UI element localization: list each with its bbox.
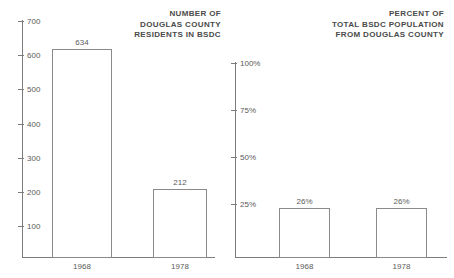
y-tick-left-700 xyxy=(18,21,24,22)
chart-title-right-line-1: PERCENT OF xyxy=(332,9,444,20)
x-label-left-1968: 1968 xyxy=(52,262,112,271)
y-tick-label-right-100: 100% xyxy=(240,59,260,68)
y-tick-right-25 xyxy=(231,204,237,205)
y-tick-label-right-25: 25% xyxy=(240,200,256,209)
chart-title-left: NUMBER OF DOUGLAS COUNTY RESIDENTS IN BS… xyxy=(134,9,221,41)
y-tick-label-right-50: 50% xyxy=(240,153,256,162)
figure-two-bar-charts: NUMBER OF DOUGLAS COUNTY RESIDENTS IN BS… xyxy=(0,0,454,278)
bar-right-1978 xyxy=(376,208,427,258)
chart-title-right: PERCENT OF TOTAL BSDC POPULATION FROM DO… xyxy=(332,9,444,41)
bar-left-1968 xyxy=(52,49,112,258)
y-tick-left-400 xyxy=(18,124,24,125)
y-tick-label-left-500: 500 xyxy=(27,85,40,94)
bar-left-1978 xyxy=(153,189,207,258)
chart-title-right-line-3: FROM DOUGLAS COUNTY xyxy=(332,30,444,41)
bar-value-right-1968: 26% xyxy=(279,197,330,206)
y-tick-label-left-300: 300 xyxy=(27,154,40,163)
chart-title-right-line-2: TOTAL BSDC POPULATION xyxy=(332,20,444,31)
x-label-right-1978: 1978 xyxy=(376,262,427,271)
y-axis-right xyxy=(235,62,236,258)
y-tick-right-75 xyxy=(231,110,237,111)
y-tick-left-300 xyxy=(18,158,24,159)
chart-panel-number-of-residents: NUMBER OF DOUGLAS COUNTY RESIDENTS IN BS… xyxy=(0,0,227,278)
y-tick-left-200 xyxy=(18,192,24,193)
y-tick-left-100 xyxy=(18,226,24,227)
chart-panel-percent-of-population: PERCENT OF TOTAL BSDC POPULATION FROM DO… xyxy=(227,0,454,278)
bar-value-left-1978: 212 xyxy=(153,178,207,187)
y-tick-label-left-600: 600 xyxy=(27,51,40,60)
y-tick-right-50 xyxy=(231,157,237,158)
chart-title-left-line-3: RESIDENTS IN BSDC xyxy=(134,30,221,41)
y-tick-left-500 xyxy=(18,89,24,90)
chart-title-left-line-2: DOUGLAS COUNTY xyxy=(134,20,221,31)
y-tick-label-right-75: 75% xyxy=(240,106,256,115)
x-label-right-1968: 1968 xyxy=(279,262,330,271)
y-tick-label-left-200: 200 xyxy=(27,188,40,197)
y-tick-label-left-100: 100 xyxy=(27,222,40,231)
bar-right-1968 xyxy=(279,208,330,258)
bar-value-left-1968: 634 xyxy=(52,38,112,47)
x-label-left-1978: 1978 xyxy=(153,262,207,271)
y-tick-left-600 xyxy=(18,55,24,56)
y-tick-label-left-700: 700 xyxy=(27,17,40,26)
y-tick-right-100 xyxy=(231,63,237,64)
y-tick-label-left-400: 400 xyxy=(27,120,40,129)
bar-value-right-1978: 26% xyxy=(376,197,427,206)
chart-title-left-line-1: NUMBER OF xyxy=(134,9,221,20)
